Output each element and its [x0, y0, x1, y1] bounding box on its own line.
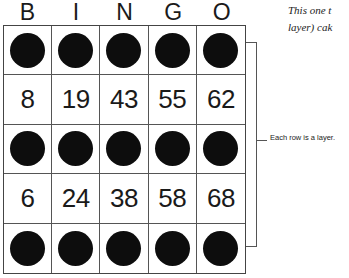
grid-cell: [149, 224, 197, 273]
grid-cell: [149, 125, 197, 174]
caption-text: This one t layer) cak: [288, 2, 332, 36]
grid-cell: 24: [52, 174, 100, 223]
cell-number: 8: [21, 84, 35, 115]
grid-cell: 62: [197, 75, 245, 124]
cell-number: 43: [110, 84, 138, 115]
grid-cell: [197, 26, 245, 75]
grid-cell: [4, 125, 52, 174]
header-letter: G: [149, 0, 198, 25]
black-chip-icon: [10, 231, 45, 266]
cell-number: 58: [158, 183, 186, 214]
black-chip-icon: [106, 33, 141, 68]
grid-cell: [100, 125, 148, 174]
caption-line: layer) cak: [288, 19, 332, 36]
bingo-card-grid: 819435562624385868: [3, 25, 246, 274]
grid-cell: [52, 125, 100, 174]
cell-number: 24: [62, 183, 90, 214]
black-chip-icon: [10, 131, 45, 166]
layer-annotation: Each row is a layer.: [270, 133, 335, 142]
bracket-pointer: [257, 140, 267, 141]
black-chip-icon: [10, 33, 45, 68]
black-chip-icon: [155, 131, 190, 166]
grid-cell: [197, 224, 245, 273]
cell-number: 62: [207, 84, 235, 115]
header-letter: B: [3, 0, 52, 25]
grid-cell: [149, 26, 197, 75]
black-chip-icon: [58, 33, 93, 68]
header-letter: N: [100, 0, 149, 25]
grid-cell: [52, 26, 100, 75]
black-chip-icon: [155, 231, 190, 266]
cell-number: 68: [207, 183, 235, 214]
black-chip-icon: [203, 231, 238, 266]
grid-cell: [4, 224, 52, 273]
grid-cell: 38: [100, 174, 148, 223]
cell-number: 55: [158, 84, 186, 115]
grid-cell: [197, 125, 245, 174]
cell-number: 6: [21, 183, 35, 214]
black-chip-icon: [155, 33, 190, 68]
cell-number: 38: [110, 183, 138, 214]
black-chip-icon: [106, 231, 141, 266]
black-chip-icon: [106, 131, 141, 166]
cell-number: 19: [62, 84, 90, 115]
black-chip-icon: [58, 131, 93, 166]
grid-cell: 55: [149, 75, 197, 124]
grid-cell: 6: [4, 174, 52, 223]
black-chip-icon: [58, 231, 93, 266]
grid-cell: [4, 26, 52, 75]
black-chip-icon: [203, 131, 238, 166]
layer-bracket: [246, 42, 257, 247]
header-letter: I: [52, 0, 101, 25]
grid-cell: 8: [4, 75, 52, 124]
black-chip-icon: [203, 33, 238, 68]
grid-cell: 68: [197, 174, 245, 223]
header-letter: O: [197, 0, 246, 25]
grid-cell: 19: [52, 75, 100, 124]
grid-cell: 43: [100, 75, 148, 124]
grid-cell: [100, 26, 148, 75]
grid-cell: 58: [149, 174, 197, 223]
caption-line: This one t: [288, 2, 332, 19]
grid-cell: [52, 224, 100, 273]
bingo-header-row: B I N G O: [3, 0, 246, 25]
grid-cell: [100, 224, 148, 273]
